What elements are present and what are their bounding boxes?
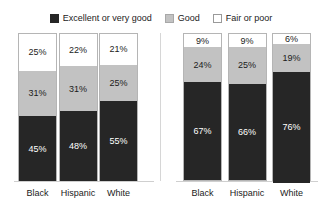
segment-fair-or-poor: 21% [100, 34, 137, 65]
segment-excellent-or-very-good: 76% [273, 72, 310, 183]
chart-panel-1: 25% 31% 45% Black 22% 31% 48% Hispanic 2… [0, 33, 150, 206]
bar-column-panel2-hispanic: 9% 25% 66% Hispanic [228, 33, 267, 206]
bar-column-panel1-black: 25% 31% 45% Black [18, 33, 57, 206]
category-label-panel2-hispanic: Hispanic [228, 188, 267, 199]
category-label-panel2-black: Black [183, 188, 222, 199]
stacked-bar-panel1-black: 25% 31% 45% [18, 33, 57, 181]
stacked-bar-chart: Excellent or very good Good Fair or poor… [0, 0, 322, 206]
segment-good: 25% [229, 47, 266, 84]
stacked-bar-panel2-white: 6% 19% 76% [272, 33, 311, 181]
stacked-bar-panel1-hispanic: 22% 31% 48% [59, 33, 98, 181]
segment-excellent-or-very-good: 66% [229, 84, 266, 180]
segment-excellent-or-very-good: 67% [184, 82, 221, 180]
legend-label-excellent-or-very-good: Excellent or very good [63, 13, 152, 23]
gray-square-icon [165, 14, 174, 23]
segment-fair-or-poor: 22% [60, 34, 97, 66]
chart-panels: 25% 31% 45% Black 22% 31% 48% Hispanic 2… [0, 33, 322, 206]
bar-column-panel1-hispanic: 22% 31% 48% Hispanic [59, 33, 98, 206]
legend-item-fair-or-poor: Fair or poor [213, 13, 273, 23]
segment-good: 31% [19, 71, 56, 116]
legend-item-good: Good [165, 13, 200, 23]
stacked-bar-panel1-white: 21% 25% 55% [99, 33, 138, 181]
chart-panel-2: 9% 24% 67% Black 9% 25% 66% Hispanic 6% … [172, 33, 322, 206]
category-label-panel1-hispanic: Hispanic [59, 188, 98, 199]
panel-spacer [150, 33, 172, 206]
segment-fair-or-poor: 25% [19, 34, 56, 71]
dark-square-icon [50, 14, 59, 23]
bar-column-panel2-black: 9% 24% 67% Black [183, 33, 222, 206]
legend-label-good: Good [178, 13, 200, 23]
segment-fair-or-poor: 9% [229, 34, 266, 47]
segment-fair-or-poor: 9% [184, 34, 221, 47]
white-square-icon [213, 14, 222, 23]
segment-fair-or-poor: 6% [273, 34, 310, 44]
segment-excellent-or-very-good: 45% [19, 116, 56, 182]
segment-good: 31% [60, 66, 97, 111]
segment-excellent-or-very-good: 55% [100, 101, 137, 181]
stacked-bar-panel2-hispanic: 9% 25% 66% [228, 33, 267, 181]
bar-column-panel2-white: 6% 19% 76% White [272, 33, 311, 206]
legend-label-fair-or-poor: Fair or poor [226, 13, 273, 23]
category-label-panel2-white: White [272, 188, 311, 199]
legend-item-excellent-or-very-good: Excellent or very good [50, 13, 152, 23]
category-label-panel1-black: Black [18, 188, 57, 199]
segment-good: 25% [100, 65, 137, 102]
segment-excellent-or-very-good: 48% [60, 111, 97, 181]
stacked-bar-panel2-black: 9% 24% 67% [183, 33, 222, 181]
chart-legend: Excellent or very good Good Fair or poor [0, 13, 322, 23]
bar-column-panel1-white: 21% 25% 55% White [99, 33, 138, 206]
segment-good: 19% [273, 44, 310, 72]
category-label-panel1-white: White [99, 188, 138, 199]
segment-good: 24% [184, 47, 221, 82]
